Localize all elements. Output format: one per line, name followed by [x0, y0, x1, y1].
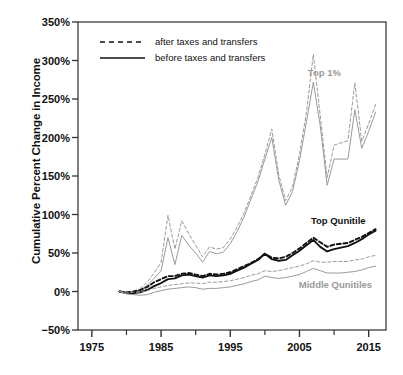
series-line: [120, 82, 376, 295]
x-tick-label: 2005: [287, 341, 311, 353]
series-annotation: Middle Qunitiles: [299, 279, 372, 290]
legend-label: before taxes and transfers: [155, 52, 265, 63]
series-annotation: Top Qunitile: [311, 215, 366, 226]
legend-label: after taxes and transfers: [155, 36, 257, 47]
x-tick-label: 1975: [80, 341, 104, 353]
x-tick-label: 1995: [218, 341, 242, 353]
x-tick-label: 1985: [149, 341, 173, 353]
chart-root: Cumulative Percent Change in Income −50%…: [0, 0, 403, 375]
x-tick-label: 2015: [356, 341, 380, 353]
series-annotation: Top 1%: [308, 67, 341, 78]
series-line: [120, 54, 376, 293]
